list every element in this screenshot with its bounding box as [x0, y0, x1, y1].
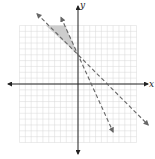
shaded-feasible-region: [46, 26, 78, 55]
coordinate-graph: x y: [0, 0, 155, 159]
dashed-boundary-line-2: [61, 17, 113, 132]
x-axis-label: x: [149, 79, 154, 89]
y-axis-label: y: [79, 0, 86, 10]
